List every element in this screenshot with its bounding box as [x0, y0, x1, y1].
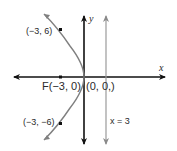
y-axis-label: y [88, 13, 94, 24]
point-bottom-label: (−3, −6) [23, 117, 55, 127]
x-axis-label: x [158, 62, 164, 73]
origin-label: (0, 0,) [86, 80, 115, 92]
focus-marker [59, 76, 62, 79]
point-top-marker [59, 28, 62, 31]
curve-arrow-bottom-icon [44, 135, 50, 140]
point-top-label: (−3, 6) [26, 26, 52, 36]
parabola-diagram: y x (−3, 6) (−3, −6) F(−3, 0) (0, 0,) x … [0, 0, 177, 151]
curve-arrow-top-icon [44, 14, 50, 19]
focus-label: F(−3, 0) [42, 80, 81, 92]
point-bottom-marker [59, 122, 62, 125]
directrix-label: x = 3 [110, 116, 130, 126]
